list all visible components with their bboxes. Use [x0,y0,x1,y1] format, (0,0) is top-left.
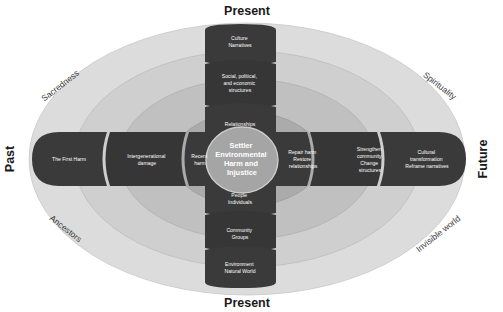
axis-label-present-top: Present [224,4,271,18]
lower-block-environment-natural-world[interactable] [205,246,276,288]
axis-label-present-bottom: Present [224,296,271,310]
right-block-strengthen-community[interactable] [310,132,382,186]
upper-block-label-culture: Culture Narratives [228,35,252,48]
left-block-label-first-harm: The First Harm [52,156,86,162]
axis-label-past: Past [3,145,17,172]
framework-diagram: Culture Narratives Social, political, an… [0,0,503,312]
lower-block-label-environment: Environment Natural World [224,261,255,274]
upper-block-label-relationships: Relationships [225,121,256,127]
right-block-label-strengthen: Strengthen community Change structures [357,146,383,173]
left-block-intergenerational-damage[interactable] [106,132,187,186]
diagram-canvas: Culture Narratives Social, political, an… [0,0,503,312]
axis-label-future: Future [476,140,490,179]
